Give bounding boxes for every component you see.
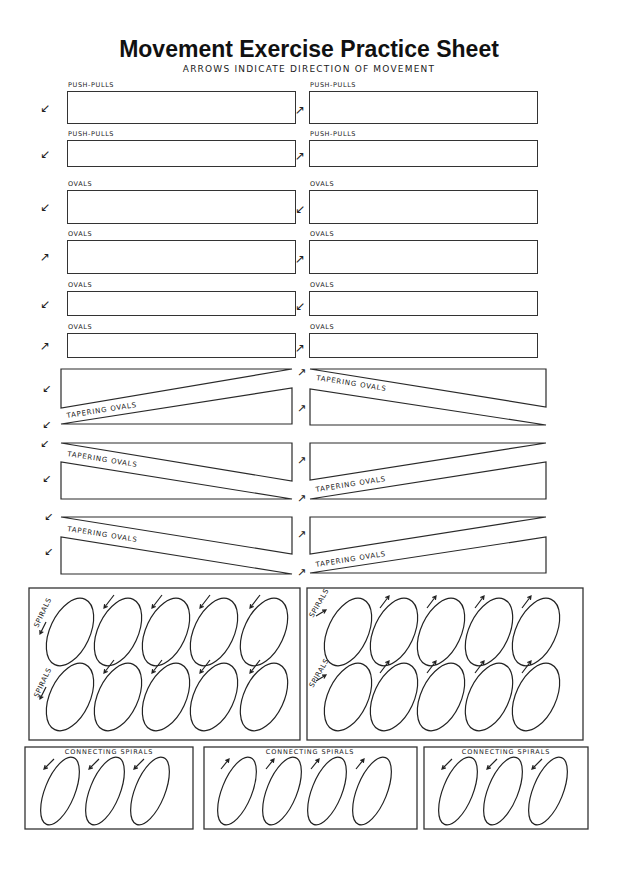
practice-oval (456, 656, 523, 738)
practice-oval (181, 656, 248, 738)
practice-oval (361, 656, 428, 738)
arrow-down-left-icon: ↙ (42, 472, 51, 485)
connecting-spirals-panel-2 (204, 747, 417, 829)
connecting-spirals-label: CONNECTING SPIRALS (266, 748, 355, 756)
arrow-down-left-icon: ↙ (42, 418, 51, 431)
tapering-shape (61, 537, 292, 574)
spirals-label: SPIRALS (33, 596, 54, 628)
practice-oval (521, 752, 576, 830)
practice-oval (408, 591, 475, 673)
tapering-shape (61, 462, 292, 499)
connecting-spirals-labels: CONNECTING SPIRALS CONNECTING SPIRALS CO… (65, 748, 551, 756)
direction-arrow-icon (532, 759, 542, 769)
spiral-labels: SPIRALS SPIRALS SPIRALS SPIRALS (33, 587, 331, 699)
direction-arrow-icon (134, 759, 144, 769)
arrow-down-left-icon: ↙ (44, 510, 53, 523)
arrow-up-right-icon: ↗ (297, 454, 306, 467)
exercise-drawing-canvas: TAPERING OVALS TAPERING OVALS TAPERING O… (0, 0, 618, 870)
practice-oval (123, 752, 178, 830)
tapering-shape (310, 369, 546, 407)
spiral-ovals (37, 591, 570, 738)
practice-oval (231, 656, 298, 738)
tapering-shape (310, 443, 546, 480)
arrow-down-left-icon: ↙ (40, 437, 49, 450)
practice-oval (345, 752, 400, 830)
practice-oval (503, 656, 570, 738)
tapering-labels: TAPERING OVALS TAPERING OVALS TAPERING O… (65, 374, 387, 569)
practice-oval (431, 752, 486, 830)
direction-arrow-icon (89, 759, 99, 769)
arrow-up-right-icon: ↗ (297, 492, 306, 505)
arrow-up-right-icon: ↗ (297, 528, 306, 541)
practice-oval (33, 752, 88, 830)
direction-arrow-icon (487, 759, 497, 769)
spirals-label: SPIRALS (308, 657, 331, 689)
practice-oval (85, 656, 152, 738)
tapering-shape (61, 388, 292, 424)
arrow-up-right-icon: ↗ (297, 366, 306, 379)
direction-arrow-icon (266, 759, 274, 769)
connecting-ovals (33, 752, 576, 830)
practice-oval (408, 656, 475, 738)
direction-arrow-icon (44, 759, 54, 769)
practice-oval (133, 656, 200, 738)
practice-oval (456, 591, 523, 673)
arrow-up-right-icon: ↗ (297, 402, 306, 415)
practice-oval (85, 591, 152, 673)
tapering-arrows: ↙ ↙ ↙ ↙ ↙ ↙ ↗ ↗ ↗ ↗ ↗ ↗ (40, 366, 306, 579)
practice-oval (503, 591, 570, 673)
practice-oval (361, 591, 428, 673)
practice-oval (255, 752, 310, 830)
practice-oval (181, 591, 248, 673)
direction-arrow-icon (442, 759, 452, 769)
arrow-up-right-icon: ↗ (297, 566, 306, 579)
tapering-label: TAPERING OVALS (315, 374, 387, 393)
tapering-label: TAPERING OVALS (66, 450, 138, 469)
arrow-down-left-icon: ↙ (42, 382, 51, 395)
direction-arrow-icon (221, 759, 229, 769)
tapering-shape (310, 389, 546, 425)
practice-oval (300, 752, 355, 830)
practice-oval (476, 752, 531, 830)
practice-oval (210, 752, 265, 830)
practice-oval (78, 752, 133, 830)
practice-oval (231, 591, 298, 673)
tapering-shape (310, 517, 546, 554)
tapering-shape (310, 537, 546, 573)
practice-oval (133, 591, 200, 673)
direction-arrow-icon (311, 759, 319, 769)
connecting-spirals-label: CONNECTING SPIRALS (65, 748, 154, 756)
tapering-shape (61, 369, 292, 408)
direction-arrow-icon (356, 759, 364, 769)
connecting-spirals-label: CONNECTING SPIRALS (462, 748, 551, 756)
arrow-down-left-icon: ↙ (44, 545, 53, 558)
